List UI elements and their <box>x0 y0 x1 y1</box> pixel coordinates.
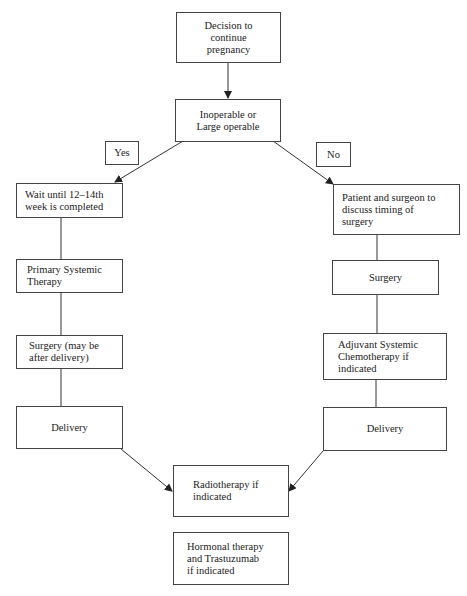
node-label: Surgery (may be after delivery) <box>29 340 99 364</box>
node-label: Wait until 12–14th week is completed <box>25 189 103 213</box>
node-label: Inoperable or Large operable <box>196 109 259 133</box>
edge-label-no: No <box>316 142 351 167</box>
node-patient-surgeon-discuss: Patient and surgeon to discuss timing of… <box>333 184 460 235</box>
node-label: Primary Systemic Therapy <box>27 264 102 288</box>
node-primary-systemic-therapy: Primary Systemic Therapy <box>16 259 123 293</box>
node-label: Radiotherapy if indicated <box>193 479 259 503</box>
edge-label-yes: Yes <box>105 141 139 165</box>
node-delivery-left: Delivery <box>16 406 123 449</box>
node-inoperable-or-large-operable: Inoperable or Large operable <box>175 99 281 142</box>
node-delivery-right: Delivery <box>323 407 447 451</box>
node-label: Surgery <box>369 272 402 284</box>
node-label: Delivery <box>51 422 88 434</box>
edge-label-text: No <box>327 149 340 161</box>
node-label: Hormonal therapy and Trastuzumab if indi… <box>187 541 264 577</box>
node-surgery-left: Surgery (may be after delivery) <box>16 335 123 369</box>
node-radiotherapy: Radiotherapy if indicated <box>173 465 289 517</box>
node-label: Adjuvant Systemic Chemotherapy if indica… <box>338 339 418 375</box>
edge-label-text: Yes <box>114 147 129 159</box>
node-adjuvant-systemic-chemotherapy: Adjuvant Systemic Chemotherapy if indica… <box>323 333 447 380</box>
node-label: Delivery <box>367 423 404 435</box>
node-label: Decision to continue pregnancy <box>204 20 252 56</box>
node-label: Patient and surgeon to discuss timing of… <box>342 192 435 228</box>
node-decision-to-continue-pregnancy: Decision to continue pregnancy <box>176 12 281 63</box>
node-hormonal-therapy-trastuzumab: Hormonal therapy and Trastuzumab if indi… <box>173 532 289 585</box>
node-surgery-right: Surgery <box>332 260 439 295</box>
node-wait-until-week: Wait until 12–14th week is completed <box>16 183 123 218</box>
